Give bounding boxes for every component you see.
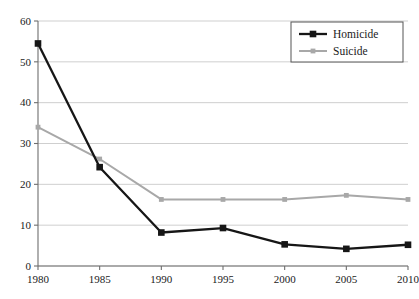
y-tick-label: 0 (26, 260, 32, 272)
data-point-marker (159, 197, 164, 202)
line-chart: 0102030405060 19801985199019952000200520… (0, 0, 419, 299)
data-point-marker (221, 197, 226, 202)
y-tick-label: 50 (20, 56, 32, 68)
y-tick-label: 10 (20, 219, 32, 231)
data-point-marker (220, 225, 227, 232)
data-point-marker (282, 197, 287, 202)
data-point-marker (343, 246, 350, 253)
data-point-marker (35, 40, 42, 47)
legend-marker-swatch (310, 31, 317, 38)
chart-legend: HomicideSuicide (291, 22, 403, 62)
legend-label: Homicide (333, 28, 378, 40)
y-tick-label: 40 (20, 96, 32, 108)
data-point-marker (406, 197, 411, 202)
x-tick-label: 1985 (89, 273, 112, 285)
data-point-marker (281, 241, 288, 248)
x-tick-label: 1980 (27, 273, 50, 285)
x-tick-label: 1990 (150, 273, 173, 285)
x-tick-label: 1995 (212, 273, 235, 285)
chart-container: 0102030405060 19801985199019952000200520… (0, 0, 419, 299)
data-point-marker (97, 157, 102, 162)
data-point-marker (344, 193, 349, 198)
y-tick-label: 30 (20, 137, 32, 149)
y-tick-label: 20 (20, 178, 32, 190)
data-point-marker (405, 241, 412, 248)
legend-label: Suicide (333, 45, 368, 57)
data-point-marker (36, 125, 41, 130)
legend-marker-swatch (311, 49, 316, 54)
data-point-marker (158, 229, 165, 236)
y-tick-label: 60 (20, 15, 32, 27)
x-tick-label: 2005 (335, 273, 358, 285)
x-tick-label: 2010 (397, 273, 419, 285)
data-point-marker (96, 164, 103, 171)
x-tick-label: 2000 (274, 273, 297, 285)
